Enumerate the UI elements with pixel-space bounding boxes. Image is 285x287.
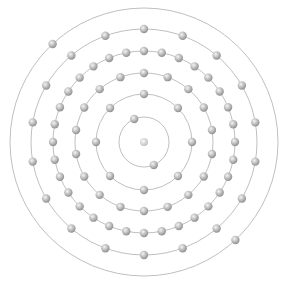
electron-icon xyxy=(140,186,148,194)
electron-icon xyxy=(48,40,56,48)
electron-icon xyxy=(64,87,72,95)
electron-icon xyxy=(51,120,59,128)
electron-icon xyxy=(140,47,148,55)
electron-icon xyxy=(204,73,212,81)
electron-icon xyxy=(251,118,259,126)
electron-icon xyxy=(229,120,237,128)
electron-icon xyxy=(231,236,239,244)
electron-icon xyxy=(212,51,220,59)
electron-icon xyxy=(122,227,130,235)
electron-icon xyxy=(200,172,208,180)
electron-icon xyxy=(251,157,259,165)
electron-icon xyxy=(158,49,166,57)
electron-icon xyxy=(200,103,208,111)
electron-icon xyxy=(174,104,182,112)
electron-icon xyxy=(140,207,148,215)
electron-icon xyxy=(174,172,182,180)
electron-icon xyxy=(163,203,171,211)
electron-icon xyxy=(212,224,220,232)
electron-icon xyxy=(158,227,166,235)
electron-icon xyxy=(75,202,83,210)
electron-icon xyxy=(89,213,97,221)
electron-icon xyxy=(163,73,171,81)
electron-icon xyxy=(56,103,64,111)
electron-icon xyxy=(51,156,59,164)
electron-icon xyxy=(140,229,148,237)
electron-icon xyxy=(106,104,114,112)
electron-icon xyxy=(95,85,103,93)
electron-icon xyxy=(140,25,148,33)
electron-icon xyxy=(116,203,124,211)
electron-icon xyxy=(122,49,130,57)
electron-icon xyxy=(80,172,88,180)
electron-icon xyxy=(224,103,232,111)
nucleus-icon xyxy=(140,138,148,146)
electron-icon xyxy=(190,213,198,221)
bohr-atom-diagram xyxy=(0,0,285,287)
electron-icon xyxy=(42,81,50,89)
electron-icon xyxy=(89,62,97,70)
electron-icon xyxy=(92,138,100,146)
electron-icon xyxy=(184,85,192,93)
electron-icon xyxy=(188,138,196,146)
electron-icon xyxy=(72,126,80,134)
electron-icon xyxy=(238,194,246,202)
electron-icon xyxy=(231,138,239,146)
electron-icon xyxy=(101,32,109,40)
electron-icon xyxy=(67,51,75,59)
electron-icon xyxy=(64,188,72,196)
electron-icon xyxy=(178,32,186,40)
electron-icon xyxy=(116,73,124,81)
electron-icon xyxy=(238,81,246,89)
electron-icon xyxy=(29,157,37,165)
electron-icon xyxy=(204,202,212,210)
electron-icon xyxy=(150,161,158,169)
electron-icon xyxy=(95,191,103,199)
electron-icon xyxy=(42,194,50,202)
electron-icon xyxy=(101,244,109,252)
electron-icon xyxy=(80,103,88,111)
electron-icon xyxy=(56,173,64,181)
electron-icon xyxy=(140,90,148,98)
electron-icon xyxy=(208,150,216,158)
electron-icon xyxy=(224,173,232,181)
electron-icon xyxy=(140,251,148,259)
electron-icon xyxy=(75,73,83,81)
electron-icon xyxy=(130,115,138,123)
electron-icon xyxy=(229,156,237,164)
electron-icon xyxy=(67,224,75,232)
electron-icon xyxy=(208,126,216,134)
electron-icon xyxy=(175,222,183,230)
electron-icon xyxy=(184,191,192,199)
electron-icon xyxy=(105,222,113,230)
electron-icon xyxy=(29,118,37,126)
electron-icon xyxy=(140,69,148,77)
electron-icon xyxy=(72,150,80,158)
electron-icon xyxy=(215,188,223,196)
electron-icon xyxy=(49,138,57,146)
electron-icon xyxy=(190,62,198,70)
nucleus xyxy=(140,138,148,146)
electron-icon xyxy=(105,54,113,62)
electron-icon xyxy=(215,87,223,95)
electron-icon xyxy=(106,172,114,180)
electron-icon xyxy=(175,54,183,62)
electron-icon xyxy=(178,244,186,252)
